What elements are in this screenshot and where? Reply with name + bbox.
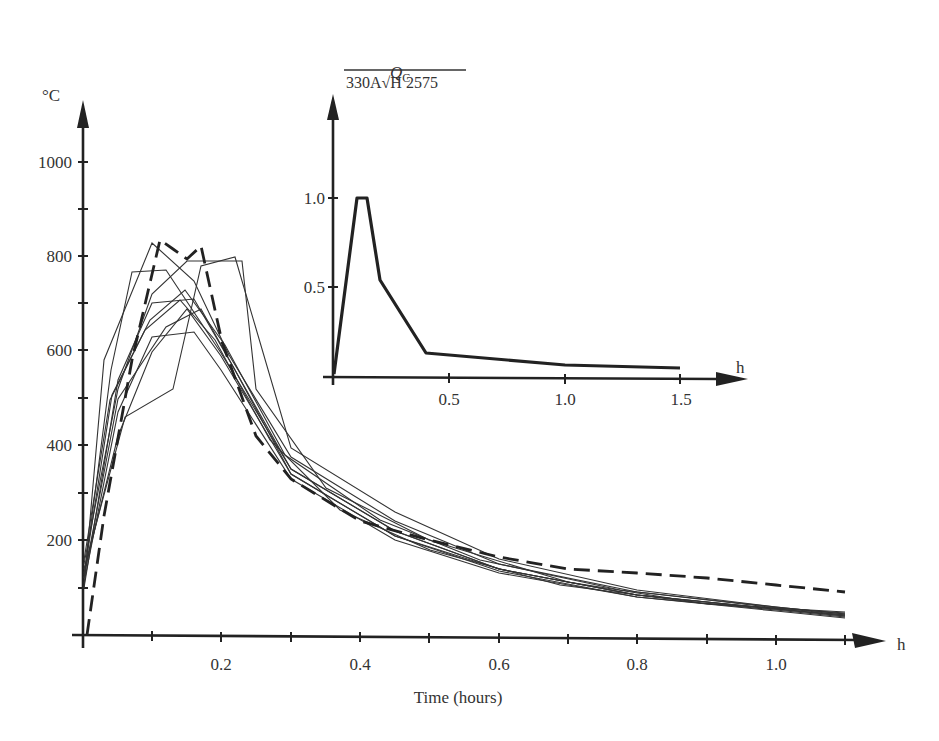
- series-measured-8: [84, 299, 845, 618]
- series-design-curve: [87, 240, 845, 635]
- x-tick-label-0.6: 0.6: [488, 655, 509, 674]
- inset-x-axis-unit-label: h: [736, 358, 745, 377]
- x-axis-arrow-icon: [852, 633, 886, 648]
- measured-curves: [84, 243, 845, 618]
- x-tick-label-1.0: 1.0: [765, 655, 786, 674]
- inset-chart: QC 330A√H 2575 1.0 0.5 0.5 1.0 1.5 h: [304, 63, 748, 409]
- main-chart: °C 1000 800 600 400 200 0.2 0.4 0.6 0.8 …: [38, 86, 906, 707]
- y-tick-label-400: 400: [47, 436, 73, 455]
- chart-canvas: °C 1000 800 600 400 200 0.2 0.4 0.6 0.8 …: [0, 0, 939, 741]
- inset-y-axis-arrow-icon: [327, 94, 339, 120]
- series-measured-4: [84, 332, 845, 617]
- x-tick-label-0.8: 0.8: [626, 655, 647, 674]
- x-tick-label-0.2: 0.2: [210, 655, 231, 674]
- x-tick-label-0.4: 0.4: [349, 655, 371, 674]
- inset-x-tick-label-1.5: 1.5: [670, 390, 691, 409]
- y-tick-label-800: 800: [47, 247, 73, 266]
- inset-x-tick-label-0.5: 0.5: [438, 390, 459, 409]
- y-tick-label-200: 200: [47, 531, 73, 550]
- inset-y-tick-label-1.0: 1.0: [304, 189, 325, 208]
- y-tick-label-600: 600: [47, 341, 73, 360]
- y-axis-arrow-icon: [77, 100, 89, 128]
- y-tick-label-1000: 1000: [38, 153, 72, 172]
- inset-y-tick-label-0.5: 0.5: [304, 278, 325, 297]
- x-axis: [72, 635, 860, 640]
- inset-y-label-denominator: 330A√H 2575: [346, 74, 438, 91]
- inset-x-tick-label-1.0: 1.0: [554, 390, 575, 409]
- inset-x-axis: [323, 377, 720, 379]
- x-axis-title: Time (hours): [414, 688, 503, 707]
- y-axis-unit-label: °C: [42, 86, 60, 105]
- x-axis-unit-label: h: [897, 635, 906, 654]
- series-measured-2: [84, 270, 845, 616]
- series-measured-9: [84, 300, 845, 613]
- series-normalized-heat-release: [334, 198, 680, 374]
